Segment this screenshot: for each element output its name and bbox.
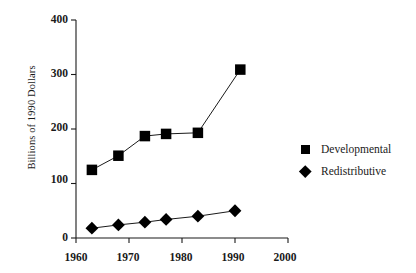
legend-label-developmental: Developmental (321, 143, 391, 155)
data-point-developmental-1973 (140, 131, 151, 142)
square-marker-icon (298, 141, 314, 157)
data-point-developmental-1983 (193, 128, 204, 139)
plot-area (0, 0, 416, 273)
data-point-developmental-1991 (235, 64, 246, 75)
y-axis-ticks (71, 20, 76, 238)
data-point-developmental-1968 (113, 150, 124, 161)
axis-lines (76, 20, 288, 238)
data-point-redistributive-1963 (86, 222, 99, 235)
data-point-redistributive-1977 (160, 213, 173, 226)
diamond-marker-icon (298, 163, 314, 179)
data-point-developmental-1977 (161, 129, 172, 140)
data-point-redistributive-1968 (112, 219, 125, 232)
data-point-redistributive-1973 (139, 216, 152, 229)
series-markers (86, 64, 246, 234)
data-point-developmental-1963 (87, 165, 98, 176)
chart-figure: Billions of 1990 Dollars 400 300 200 100… (0, 0, 416, 273)
legend-item-developmental: Developmental (298, 138, 416, 160)
x-axis-ticks (76, 238, 288, 243)
series-lines (92, 70, 240, 229)
chart-legend: Developmental Redistributive (298, 138, 416, 182)
legend-label-redistributive: Redistributive (321, 165, 386, 177)
legend-item-redistributive: Redistributive (298, 160, 416, 182)
data-point-redistributive-1983 (192, 210, 205, 223)
data-point-redistributive-1990 (229, 204, 242, 217)
